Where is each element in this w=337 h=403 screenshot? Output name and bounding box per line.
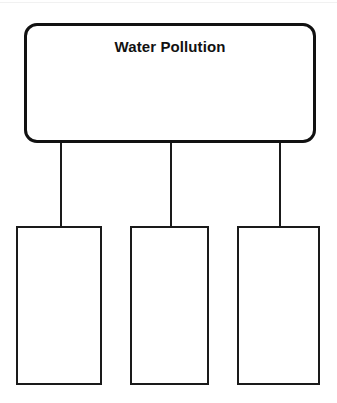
- topic-box[interactable]: Water Pollution: [24, 23, 316, 143]
- connector-line-1: [60, 143, 62, 227]
- connector-line-2: [170, 143, 172, 227]
- worksheet-canvas: Water Pollution: [0, 0, 337, 403]
- detail-box-1[interactable]: [16, 226, 102, 385]
- detail-box-3[interactable]: [237, 226, 320, 385]
- page-top-edge-artifact: [0, 2, 337, 3]
- detail-box-2-text: [132, 228, 207, 240]
- topic-title: Water Pollution: [27, 38, 313, 56]
- detail-box-2[interactable]: [130, 226, 209, 385]
- detail-box-1-text: [18, 228, 100, 240]
- connector-line-3: [279, 143, 281, 227]
- detail-box-3-text: [239, 228, 318, 240]
